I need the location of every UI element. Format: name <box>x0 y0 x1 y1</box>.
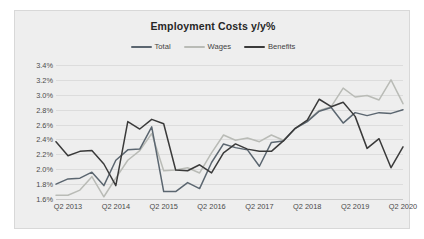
chart-legend: TotalWagesBenefits <box>15 42 411 51</box>
legend-swatch <box>131 46 152 48</box>
y-axis-tick-label: 2.4% <box>21 135 53 144</box>
y-axis-tick-label: 2.0% <box>21 165 53 174</box>
y-axis-tick-label: 3.2% <box>21 75 53 84</box>
x-axis-tick-label: Q2 2017 <box>245 202 273 211</box>
chart-title: Employment Costs y/y% <box>15 20 411 32</box>
x-axis-tick-label: Q2 2015 <box>150 202 178 211</box>
legend-item-total[interactable]: Total <box>131 42 171 51</box>
x-axis-labels: Q2 2013Q2 2014Q2 2015Q2 2016Q2 2017Q2 20… <box>56 202 403 216</box>
line-series-total <box>56 107 403 191</box>
plot-area <box>56 65 403 199</box>
x-axis-tick-label: Q2 2020 <box>389 202 417 211</box>
series-lines <box>56 65 403 199</box>
y-axis-tick-label: 3.0% <box>21 90 53 99</box>
y-axis-tick-label: 3.4% <box>21 61 53 70</box>
line-series-benefits <box>56 99 403 185</box>
y-axis-tick-label: 2.8% <box>21 105 53 114</box>
x-axis-tick-label: Q2 2016 <box>197 202 225 211</box>
legend-label: Benefits <box>268 42 295 51</box>
y-axis-labels: 3.4%3.2%3.0%2.8%2.6%2.4%2.2%2.0%1.8%1.6% <box>18 65 53 199</box>
chart-container: Employment Costs y/y% TotalWagesBenefits… <box>0 0 424 239</box>
chart-panel: Employment Costs y/y% TotalWagesBenefits… <box>14 10 410 229</box>
legend-swatch <box>184 46 205 48</box>
legend-label: Wages <box>208 42 231 51</box>
legend-label: Total <box>155 42 171 51</box>
y-axis-tick-label: 1.8% <box>21 180 53 189</box>
line-series-wages <box>56 80 403 197</box>
x-axis-tick-label: Q2 2014 <box>102 202 130 211</box>
y-axis-tick-label: 1.6% <box>21 195 53 204</box>
y-axis-tick-label: 2.2% <box>21 150 53 159</box>
x-axis-tick-label: Q2 2019 <box>341 202 369 211</box>
gridline <box>56 199 403 200</box>
legend-item-wages[interactable]: Wages <box>184 42 231 51</box>
y-axis-tick-label: 2.6% <box>21 120 53 129</box>
x-axis-tick-label: Q2 2018 <box>293 202 321 211</box>
x-axis-tick-label: Q2 2013 <box>54 202 82 211</box>
legend-item-benefits[interactable]: Benefits <box>244 42 295 51</box>
legend-swatch <box>244 46 265 48</box>
